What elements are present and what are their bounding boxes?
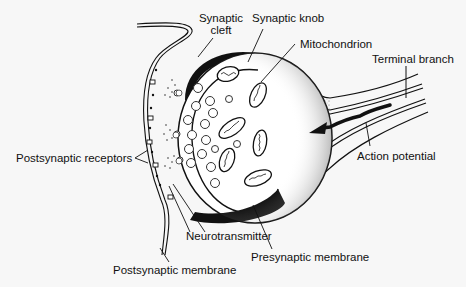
label-action-potential: Action potential	[357, 150, 436, 162]
synapse-diagram	[0, 0, 466, 287]
label-neurotransmitter: Neurotransmitter	[186, 230, 272, 242]
label-synaptic-knob: Synaptic knob	[252, 12, 324, 24]
label-presynaptic-membrane: Presynaptic membrane	[251, 251, 369, 263]
label-postsynaptic-membrane: Postsynaptic membrane	[113, 264, 236, 276]
label-mitochondrion: Mitochondrion	[300, 38, 372, 50]
label-synaptic-cleft: Synaptic cleft	[196, 12, 246, 36]
label-synaptic-cleft-line2: cleft	[196, 24, 246, 36]
label-terminal-branch: Terminal branch	[372, 53, 454, 65]
label-postsynaptic-receptors: Postsynaptic receptors	[16, 152, 132, 164]
postsynaptic-receptors	[147, 80, 173, 199]
label-synaptic-cleft-line1: Synaptic	[196, 12, 246, 24]
